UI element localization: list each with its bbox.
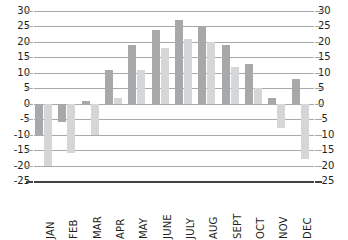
tick-mark <box>26 181 33 183</box>
x-axis-tick-label: MAY <box>139 183 149 239</box>
bar <box>268 98 276 104</box>
bar <box>277 104 285 129</box>
y-axis-right: 302520151050-5-10-15-20-25 <box>318 11 346 181</box>
bar <box>254 88 262 103</box>
bar-group <box>174 11 197 181</box>
bar <box>105 70 113 104</box>
bar <box>67 104 75 153</box>
tick-mark <box>315 88 322 89</box>
bar <box>128 45 136 104</box>
tick-mark <box>315 11 322 12</box>
x-axis-tick-label: JAN <box>46 183 56 239</box>
bar-group <box>244 11 267 181</box>
tick-mark <box>26 42 33 43</box>
bar-group <box>267 11 290 181</box>
bar <box>137 70 145 104</box>
x-axis-tick-label: OCT <box>256 183 266 239</box>
bar <box>161 48 169 104</box>
bar-group <box>81 11 104 181</box>
bar-group <box>34 11 57 181</box>
bar <box>301 104 309 160</box>
bar-group <box>104 11 127 181</box>
bar <box>222 45 230 104</box>
x-axis-tick-label: FEB <box>69 183 79 239</box>
bar-group <box>127 11 150 181</box>
bar <box>44 104 52 166</box>
bar <box>152 30 160 104</box>
bar <box>175 20 183 103</box>
tick-mark <box>26 166 33 167</box>
bar <box>184 39 192 104</box>
x-axis-category-labels: JANFEBMARAPRMAYJUNEJULYAUGSEPTOCTNOVDEC <box>34 183 314 240</box>
tick-mark <box>26 57 33 58</box>
tick-mark <box>26 104 33 105</box>
bar-group <box>151 11 174 181</box>
x-axis-tick-label: AUG <box>209 183 219 239</box>
y-axis-left: 302520151050-5-10-15-20-25 <box>4 11 30 181</box>
bar <box>207 42 215 104</box>
bar-group <box>221 11 244 181</box>
x-axis-tick-label: MAR <box>93 183 103 239</box>
tick-mark <box>315 119 322 120</box>
bar-groups <box>34 11 314 181</box>
bar-group <box>291 11 314 181</box>
tick-mark <box>26 26 33 27</box>
tick-mark <box>315 42 322 43</box>
bar <box>198 26 206 103</box>
tick-mark <box>26 150 33 151</box>
tick-mark <box>315 104 322 105</box>
bar-group <box>197 11 220 181</box>
bar <box>231 67 239 104</box>
x-axis-tick-label: DEC <box>303 183 313 239</box>
bar <box>245 64 253 104</box>
tick-mark <box>26 88 33 89</box>
tick-mark <box>315 135 322 136</box>
tick-mark <box>315 181 322 183</box>
bar <box>91 104 99 135</box>
bar <box>58 104 66 123</box>
x-axis-tick-label: APR <box>116 183 126 239</box>
tick-mark <box>315 166 322 167</box>
bar <box>35 104 43 135</box>
bar-chart: 302520151050-5-10-15-20-25 302520151050-… <box>0 0 348 240</box>
plot-area <box>34 11 314 181</box>
bar <box>114 98 122 104</box>
tick-mark <box>315 26 322 27</box>
tick-mark <box>26 135 33 136</box>
tick-mark <box>315 150 322 151</box>
x-axis-tick-label: NOV <box>279 183 289 239</box>
bar-group <box>57 11 80 181</box>
tick-mark <box>315 57 322 58</box>
bar <box>82 101 90 104</box>
tick-mark <box>26 119 33 120</box>
tick-mark <box>26 11 33 12</box>
x-axis-tick-label: JULY <box>186 183 196 239</box>
tick-mark <box>315 73 322 74</box>
bar <box>292 79 300 104</box>
x-axis-tick-label: SEPT <box>233 183 243 239</box>
tick-mark <box>26 73 33 74</box>
x-axis-tick-label: JUNE <box>163 183 173 239</box>
